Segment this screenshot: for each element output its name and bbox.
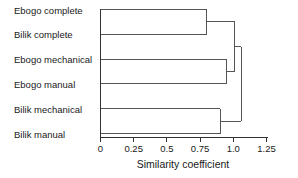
x-tick-label: 0.5 — [160, 143, 173, 154]
leaf-label: Bilik complete — [14, 29, 98, 40]
leaf-label: Ebogo mechanical — [14, 54, 98, 65]
leaf-label: Bilik mechanical — [14, 103, 98, 114]
x-tick-label: 0.25 — [124, 143, 143, 154]
x-tick-label: 0 — [98, 143, 103, 154]
leaf-label: Ebogo manual — [14, 78, 98, 89]
leaf-label: Ebogo complete — [14, 4, 98, 15]
x-tick-label: 1.0 — [227, 143, 240, 154]
dendrogram-chart: Ebogo completeBilik completeEbogo mechan… — [0, 0, 298, 178]
x-axis-title: Similarity coefficient — [137, 158, 230, 170]
x-tick-label: 1.25 — [257, 143, 276, 154]
x-tick-label: 0.75 — [191, 143, 210, 154]
leaf-label: Bilik manual — [14, 128, 98, 139]
